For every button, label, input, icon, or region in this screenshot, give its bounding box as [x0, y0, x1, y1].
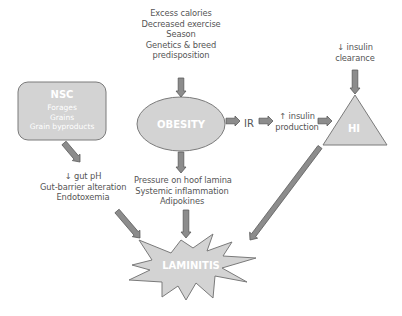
clearance-line: clearance: [330, 53, 380, 64]
production-line: ↑ insulin: [272, 111, 322, 122]
gut-line: ↓ gut pH: [40, 171, 126, 182]
clearance-line: ↓ insulin: [330, 42, 380, 53]
gut-line: Endotoxemia: [40, 192, 126, 203]
hi-title: HI: [348, 123, 360, 134]
arrow-nsc-to-gut: [62, 141, 80, 162]
cause-line: predisposition: [131, 50, 231, 61]
obesity-node: OBESITY: [137, 97, 225, 151]
arrow-clearance-to-hi: [350, 70, 360, 94]
nsc-item: Grains: [50, 113, 74, 122]
cause-line: Decreased exercise: [131, 19, 231, 30]
arrow-obesity-to-ir: [226, 116, 240, 126]
gut-line: Gut-barrier alteration: [40, 182, 126, 193]
hi-node: HI: [323, 95, 387, 145]
nsc-title: NSC: [51, 89, 74, 100]
arrow-obesity-to-effects: [176, 152, 186, 173]
nsc-item: Forages: [47, 103, 77, 112]
gut-effects-label: ↓ gut pH Gut-barrier alteration Endotoxe…: [40, 171, 126, 203]
cause-line: Genetics & breed: [131, 40, 231, 51]
insulin-clearance-label: ↓ insulin clearance: [330, 42, 380, 63]
cause-line: Excess calories: [131, 8, 231, 19]
ir-label: IR: [244, 118, 254, 129]
nsc-node: NSC Forages Grains Grain byproducts: [18, 82, 106, 140]
arrow-ir-to-production: [259, 116, 273, 126]
nsc-item: Grain byproducts: [30, 122, 95, 131]
arrow-effects-to-laminitis: [181, 210, 191, 238]
arrows: [62, 70, 360, 240]
effect-line: Pressure on hoof lamina: [134, 175, 230, 186]
laminitis-title: LAMINITIS: [162, 260, 220, 271]
insulin-production-label: ↑ insulin production: [272, 111, 322, 132]
obesity-title: OBESITY: [157, 119, 206, 130]
effect-line: Systemic inflammation: [134, 186, 230, 197]
obesity-causes-label: Excess calories Decreased exercise Seaso…: [131, 8, 231, 61]
arrow-gut-to-laminitis: [115, 209, 140, 238]
arrow-causes-to-obesity: [176, 78, 186, 97]
laminitis-node: LAMINITIS: [129, 234, 256, 300]
arrow-hi-to-laminitis: [250, 146, 322, 241]
effect-line: Adipokines: [134, 196, 230, 207]
production-line: production: [272, 122, 322, 133]
cause-line: Season: [131, 29, 231, 40]
obesity-effects-label: Pressure on hoof lamina Systemic inflamm…: [134, 175, 230, 207]
